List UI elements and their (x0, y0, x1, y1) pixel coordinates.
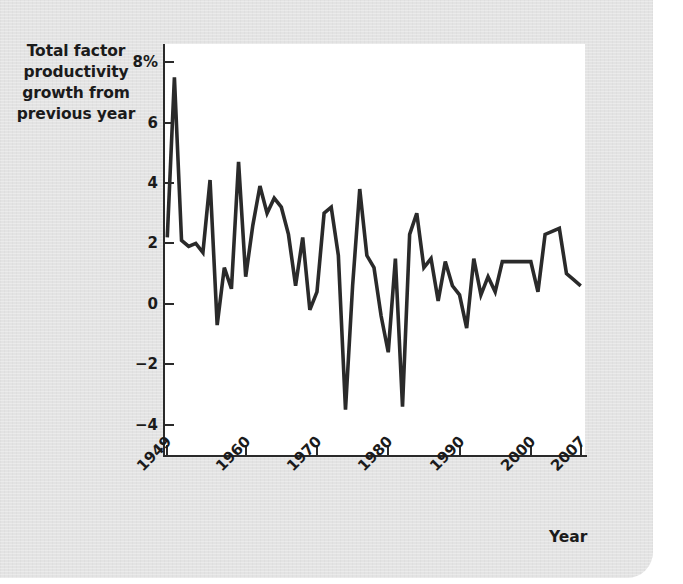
series-line-chart (163, 44, 585, 455)
y-axis-tick-label: −4 (106, 416, 158, 434)
y-axis-tick-label: 8% (106, 53, 158, 71)
y-axis-tick-label: 4 (106, 174, 158, 192)
y-axis-tick-label: 2 (106, 234, 158, 252)
x-axis-title: Year (549, 528, 587, 546)
y-axis-tick-labels: 8%6420−2−4 (100, 0, 158, 584)
y-axis-tick-label: 0 (106, 295, 158, 313)
y-axis-tick-label: 6 (106, 114, 158, 132)
y-axis-tick-label: −2 (106, 355, 158, 373)
figure-page: Total factor productivity growth from pr… (0, 0, 683, 584)
series-polyline (167, 77, 580, 409)
